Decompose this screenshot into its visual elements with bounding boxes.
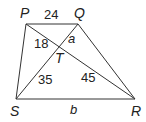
- segment-label-pq: 24: [44, 7, 58, 22]
- segment-label-rt: 45: [81, 70, 95, 85]
- segment-label-pt: 18: [34, 36, 48, 51]
- edge-qr: [78, 24, 135, 99]
- edge-sp: [16, 24, 26, 99]
- segment-label-qt: a: [68, 31, 75, 46]
- vertex-label-p: P: [20, 5, 30, 21]
- vertex-label-r: R: [131, 103, 141, 119]
- vertex-label-q: Q: [74, 5, 85, 21]
- segment-label-st: 35: [38, 72, 52, 87]
- vertex-label-s: S: [10, 103, 20, 119]
- trapezoid-diagram: P Q S R T 24 18 a 35 45 b: [0, 0, 146, 122]
- vertex-label-t: T: [55, 50, 65, 66]
- segment-label-sr: b: [70, 102, 77, 117]
